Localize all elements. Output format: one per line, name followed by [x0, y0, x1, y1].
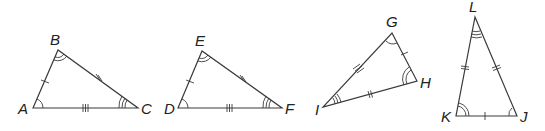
triangle-ghi-outline: [323, 33, 417, 107]
angle-g-arc: [386, 41, 397, 44]
triangle-ghi: G H I: [315, 13, 431, 118]
triangle-abc: B A C: [17, 31, 152, 117]
angle-a-arc: [37, 99, 43, 108]
vertex-label-g: G: [386, 13, 398, 30]
triangle-jkl: L K J: [441, 0, 528, 125]
vertex-label-j: J: [519, 108, 528, 125]
angle-d-arc: [182, 99, 188, 108]
vertex-label-c: C: [141, 100, 152, 117]
angle-k-arcs: [458, 103, 469, 116]
angle-j-arc: [509, 108, 512, 116]
vertex-label-a: A: [17, 100, 28, 117]
triangle-def: E D F: [164, 32, 295, 117]
vertex-label-k: K: [441, 108, 452, 125]
triangle-def-outline: [178, 51, 282, 108]
vertex-label-b: B: [50, 31, 60, 48]
vertex-label-f: F: [285, 100, 295, 117]
vertex-label-h: H: [420, 74, 431, 91]
angle-h-arcs: [403, 67, 411, 85]
triangles-figure: B A C E D F: [0, 0, 545, 131]
triangle-abc-outline: [33, 50, 138, 108]
vertex-label-e: E: [195, 32, 206, 49]
vertex-label-l: L: [469, 0, 477, 15]
vertex-label-d: D: [164, 100, 175, 117]
vertex-label-i: I: [315, 101, 319, 118]
